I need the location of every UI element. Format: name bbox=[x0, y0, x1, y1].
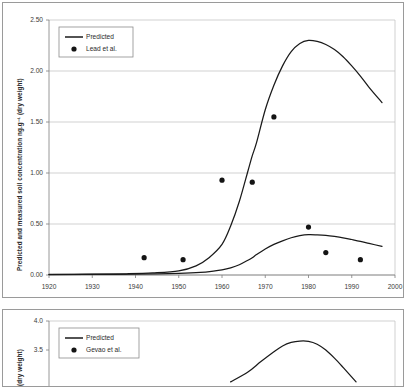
top-y-tick-label: 0.00 bbox=[30, 271, 43, 278]
top-chart-y-axis-label: Predicted and measured soil concentratio… bbox=[16, 78, 23, 271]
top-data-point bbox=[323, 250, 328, 255]
top-y-tick-label: 1.50 bbox=[30, 118, 43, 125]
top-data-point bbox=[180, 257, 185, 262]
bottom-legend-label-predicted: Predicted bbox=[86, 334, 114, 341]
top-legend-label-measured: Lead et al. bbox=[86, 45, 117, 52]
top-data-point bbox=[358, 257, 363, 262]
bottom-predicted-curve bbox=[231, 341, 356, 382]
bottom-legend-label-measured: Gevao et al. bbox=[86, 346, 122, 353]
bottom-chart-y-axis-label: (dry weight) bbox=[16, 349, 23, 386]
top-x-tick-label: 1930 bbox=[85, 283, 100, 290]
top-x-tick-label: 1920 bbox=[42, 283, 57, 290]
bottom-legend-box bbox=[59, 328, 139, 358]
top-legend-dot-swatch bbox=[71, 46, 76, 51]
top-legend-label-predicted: Predicted bbox=[86, 33, 114, 40]
top-x-tick-label: 2000 bbox=[388, 283, 403, 290]
top-data-point bbox=[250, 180, 255, 185]
top-x-tick-label: 1960 bbox=[215, 283, 230, 290]
top-y-tick-label: 2.50 bbox=[30, 16, 43, 23]
top-y-tick-label: 0.50 bbox=[30, 220, 43, 227]
top-data-point bbox=[271, 114, 276, 119]
chart-panel-bottom: 3.54.0PredictedGevao et al. (dry weight) bbox=[2, 309, 404, 387]
top-legend-box bbox=[59, 27, 133, 57]
top-data-point bbox=[142, 255, 147, 260]
top-data-point bbox=[306, 224, 311, 229]
top-x-tick-label: 1990 bbox=[344, 283, 359, 290]
top-x-tick-label: 1980 bbox=[301, 283, 316, 290]
top-x-tick-label: 1940 bbox=[128, 283, 143, 290]
top-y-tick-label: 2.00 bbox=[30, 67, 43, 74]
top-predicted-curve bbox=[49, 40, 382, 274]
bottom-y-tick-label: 3.5 bbox=[34, 346, 43, 353]
top-x-tick-label: 1970 bbox=[258, 283, 273, 290]
top-x-tick-label: 1950 bbox=[171, 283, 186, 290]
bottom-y-tick-label: 4.0 bbox=[34, 317, 43, 324]
top-predicted-curve bbox=[49, 235, 382, 275]
bottom-chart-canvas: 3.54.0PredictedGevao et al. bbox=[3, 310, 403, 386]
top-chart-canvas: 0.000.501.001.502.002.501920193019401950… bbox=[3, 3, 403, 297]
chart-panel-top: 0.000.501.001.502.002.501920193019401950… bbox=[2, 2, 404, 298]
top-y-tick-label: 1.00 bbox=[30, 169, 43, 176]
top-data-point bbox=[219, 178, 224, 183]
bottom-legend-dot-swatch bbox=[71, 347, 76, 352]
